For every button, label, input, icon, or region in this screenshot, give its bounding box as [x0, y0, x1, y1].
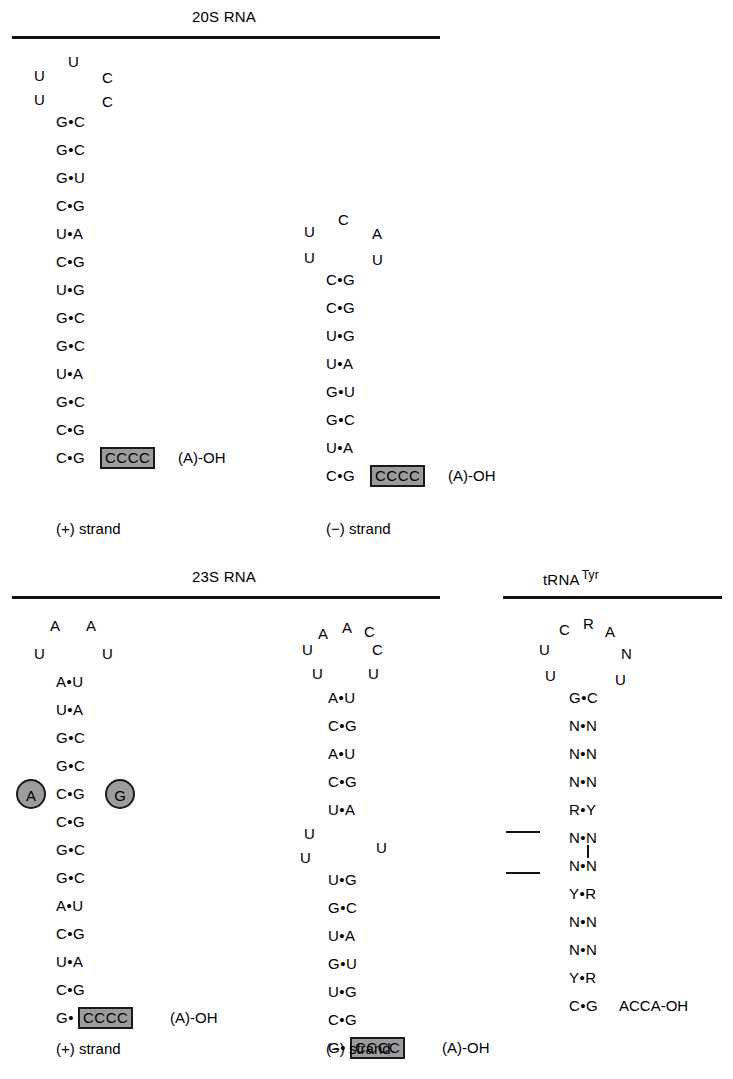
base-pair: G•C — [56, 758, 85, 773]
terminal-base-pair: G• — [56, 1010, 74, 1025]
base-link-tick — [587, 845, 589, 858]
modified-base-dash-lower — [506, 872, 540, 874]
base-pair: A•U — [328, 690, 356, 705]
base-pair: U•G — [56, 282, 85, 297]
base-pair: A•U — [56, 898, 84, 913]
loop-base: C — [372, 642, 383, 657]
loop-base: N — [621, 646, 632, 661]
base-pair: Y•R — [569, 886, 597, 901]
base-pair: G•C — [56, 842, 85, 857]
panel-rule-20s — [12, 36, 440, 39]
panel-title-trna-text: tRNA — [543, 571, 580, 588]
highlight-circle-g: G — [105, 779, 135, 809]
base-pair: N•N — [569, 914, 597, 929]
loop-base: U — [312, 666, 323, 681]
loop-base: U — [68, 54, 79, 69]
base-pair: A•U — [328, 746, 356, 761]
strand-label-23s-plus: (+) strand — [56, 1040, 121, 1057]
loop-base: C — [338, 212, 349, 227]
terminus-label: (A)-OH — [178, 450, 226, 465]
base-pair: G•C — [328, 900, 357, 915]
strand-label-20s-minus: (−) strand — [326, 520, 391, 537]
base-pair: G•C — [56, 114, 85, 129]
terminus-label: (A)-OH — [170, 1010, 218, 1025]
base-pair: C•G — [56, 254, 85, 269]
base-pair: G•C — [56, 730, 85, 745]
base-pair: N•N — [569, 774, 597, 789]
panel-rule-trna — [503, 596, 722, 599]
base-pair: C•G — [56, 926, 85, 941]
loop-base: A — [50, 618, 60, 633]
loop-base: C — [102, 94, 113, 109]
panel-title-20s-text: 20S RNA — [192, 8, 256, 25]
terminus-label: (A)-OH — [448, 468, 496, 483]
loop-base: U — [368, 666, 379, 681]
base-pair: G•C — [569, 690, 598, 705]
loop-base: A — [372, 226, 382, 241]
base-pair: A•U — [56, 674, 84, 689]
base-pair: N•N — [569, 830, 597, 845]
loop-base: U — [34, 646, 45, 661]
panel-title-trna-superscript: Tyr — [582, 568, 599, 582]
loop-base: U — [304, 250, 315, 265]
strand-label-23s-minus: (−) strand — [326, 1040, 391, 1057]
base-pair: C•G — [326, 300, 355, 315]
bulge-base: U — [300, 850, 311, 865]
base-pair: U•G — [328, 872, 357, 887]
bulge-base: U — [304, 826, 315, 841]
base-pair: G•C — [56, 338, 85, 353]
loop-base: C — [364, 624, 375, 639]
base-pair: C•G — [56, 422, 85, 437]
base-pair: N•N — [569, 718, 597, 733]
loop-base: U — [102, 646, 113, 661]
base-pair: U•G — [326, 328, 355, 343]
base-pair: N•N — [569, 942, 597, 957]
base-pair: N•N — [569, 746, 597, 761]
panel-title-23s: 23S RNA — [192, 568, 256, 585]
base-pair: U•A — [56, 366, 84, 381]
base-pair: R•Y — [569, 802, 597, 817]
base-pair: U•A — [328, 802, 356, 817]
loop-base: U — [545, 668, 556, 683]
base-pair: C•G — [56, 982, 85, 997]
terminus-label: (A)-OH — [442, 1040, 490, 1055]
base-pair: U•A — [56, 226, 84, 241]
base-pair: C•G — [326, 272, 355, 287]
cccc-box-text: CCCC — [100, 447, 155, 469]
base-pair: U•A — [56, 702, 84, 717]
panel-title-trna: tRNATyr — [543, 568, 599, 588]
terminal-base-pair: C•G — [569, 998, 598, 1013]
base-pair: U•A — [56, 954, 84, 969]
base-pair: G•C — [56, 310, 85, 325]
loop-base: U — [302, 642, 313, 657]
base-pair: U•A — [326, 356, 354, 371]
base-pair: G•U — [326, 384, 355, 399]
loop-base: C — [559, 622, 570, 637]
loop-base: U — [34, 92, 45, 107]
base-pair: U•G — [328, 984, 357, 999]
loop-base: C — [102, 70, 113, 85]
cccc-box: CCCC — [370, 465, 425, 487]
base-pair: G•C — [56, 394, 85, 409]
base-pair: U•A — [326, 440, 354, 455]
base-pair: G•U — [56, 170, 85, 185]
base-pair: C•G — [56, 786, 85, 801]
base-pair: N•N — [569, 858, 597, 873]
base-pair: U•A — [328, 928, 356, 943]
loop-base: A — [86, 618, 96, 633]
terminus-label: ACCA-OH — [619, 998, 688, 1013]
base-pair: C•G — [56, 198, 85, 213]
loop-base: R — [583, 616, 594, 631]
terminal-base-pair: C•G — [56, 450, 85, 465]
loop-base: U — [539, 642, 550, 657]
strand-label-20s-plus: (+) strand — [56, 520, 121, 537]
bulge-base: U — [376, 840, 387, 855]
cccc-box-text: CCCC — [78, 1007, 133, 1029]
panel-rule-23s — [12, 596, 440, 599]
panel-title-23s-text: 23S RNA — [192, 568, 256, 585]
loop-base: A — [605, 624, 615, 639]
base-pair: Y•R — [569, 970, 597, 985]
modified-base-dash-upper — [506, 831, 540, 833]
base-pair: G•U — [328, 956, 357, 971]
base-pair: G•C — [326, 412, 355, 427]
